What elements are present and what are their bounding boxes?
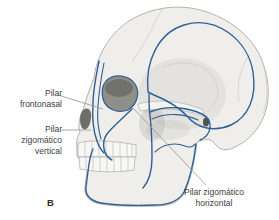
label-pilar-frontonasal: Pilar frontonasal	[6, 88, 62, 110]
orbit-inner-shadow	[105, 79, 133, 97]
skull-buttress-figure: Pilar frontonasal Pilar zigomático verti…	[0, 0, 279, 220]
label-pilar-zigomatico-vertical: Pilar zigomático vertical	[6, 124, 62, 157]
figure-letter: B	[47, 197, 54, 208]
label-pilar-zigomatico-horizontal: Pilar zigomático horizontal	[166, 187, 262, 209]
